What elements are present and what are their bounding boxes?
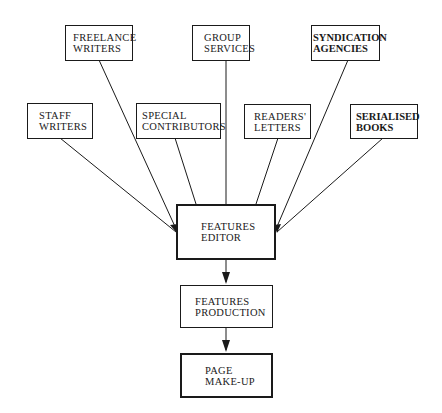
- node-label-line2: WRITERS: [73, 43, 132, 54]
- node-label-line1: FEATURES: [195, 296, 272, 307]
- node-special-contributors: SPECIAL CONTRIBUTORS: [136, 103, 221, 139]
- node-label-line1: FEATURES: [201, 221, 274, 232]
- edge-syndication-to-editor: [276, 60, 348, 229]
- features-flow-diagram: FREELANCE WRITERS GROUP SERVICES SYNDICA…: [0, 0, 442, 413]
- arrowhead-icon: [222, 272, 230, 284]
- edge-special-to-editor: [175, 138, 196, 204]
- node-label-line1: FREELANCE: [73, 32, 132, 43]
- node-label-line1: SERIALISED: [356, 111, 417, 122]
- node-group-services: GROUP SERVICES: [192, 25, 250, 61]
- node-label-line2: EDITOR: [201, 232, 274, 243]
- node-label-line2: MAKE-UP: [205, 376, 271, 387]
- node-label-line2: AGENCIES: [313, 43, 379, 54]
- node-page-make-up: PAGE MAKE-UP: [180, 353, 273, 398]
- node-serialised-books: SERIALISED BOOKS: [350, 104, 418, 139]
- node-label-line2: WRITERS: [39, 121, 92, 132]
- edge-staff-to-editor: [60, 138, 176, 232]
- node-label-line2: BOOKS: [356, 122, 417, 133]
- node-features-production: FEATURES PRODUCTION: [180, 285, 273, 328]
- edge-readers-to-editor: [256, 138, 278, 204]
- node-syndication-agencies: SYNDICATION AGENCIES: [311, 25, 380, 61]
- node-staff-writers: STAFF WRITERS: [27, 103, 93, 139]
- node-label-line1: SYNDICATION: [313, 32, 379, 43]
- node-label-line1: READERS': [254, 111, 310, 122]
- node-label-line2: CONTRIBUTORS: [142, 121, 220, 132]
- node-label-line1: GROUP: [204, 32, 249, 43]
- arrowhead-icon: [222, 340, 230, 352]
- node-freelance-writers: FREELANCE WRITERS: [65, 25, 133, 61]
- node-label-line1: PAGE: [205, 365, 271, 376]
- node-label-line2: LETTERS: [254, 122, 310, 133]
- node-label-line2: SERVICES: [204, 43, 249, 54]
- node-features-editor: FEATURES EDITOR: [176, 204, 276, 260]
- edge-serialised-to-editor: [277, 138, 383, 232]
- node-label-line2: PRODUCTION: [195, 307, 272, 318]
- edge-freelance-to-editor: [99, 60, 177, 231]
- node-readers-letters: READERS' LETTERS: [244, 104, 311, 139]
- node-label-line1: STAFF: [39, 110, 92, 121]
- node-label-line1: SPECIAL: [142, 110, 220, 121]
